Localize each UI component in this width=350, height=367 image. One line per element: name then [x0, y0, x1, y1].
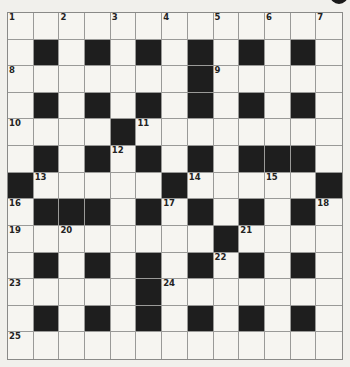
grid-cell[interactable]	[239, 279, 265, 306]
grid-cell[interactable]	[214, 279, 240, 306]
grid-cell[interactable]: 25	[8, 332, 34, 359]
grid-cell[interactable]	[291, 13, 317, 40]
grid-cell[interactable]	[291, 332, 317, 359]
grid-cell[interactable]	[316, 332, 342, 359]
grid-cell[interactable]	[265, 119, 291, 146]
grid-cell[interactable]	[265, 306, 291, 333]
grid-cell[interactable]	[265, 93, 291, 120]
grid-cell[interactable]	[239, 13, 265, 40]
grid-cell[interactable]	[214, 146, 240, 173]
grid-cell[interactable]	[34, 226, 60, 253]
grid-cell[interactable]	[214, 199, 240, 226]
grid-cell[interactable]: 4	[162, 13, 188, 40]
grid-cell[interactable]	[111, 332, 137, 359]
grid-cell[interactable]: 2	[59, 13, 85, 40]
grid-cell[interactable]	[162, 306, 188, 333]
grid-cell[interactable]	[59, 173, 85, 200]
grid-cell[interactable]	[188, 13, 214, 40]
grid-cell[interactable]	[316, 66, 342, 93]
grid-cell[interactable]	[316, 93, 342, 120]
grid-cell[interactable]	[291, 279, 317, 306]
grid-cell[interactable]	[136, 173, 162, 200]
grid-cell[interactable]: 11	[136, 119, 162, 146]
grid-cell[interactable]	[214, 332, 240, 359]
grid-cell[interactable]	[8, 40, 34, 67]
grid-cell[interactable]	[188, 226, 214, 253]
grid-cell[interactable]	[8, 146, 34, 173]
grid-cell[interactable]	[316, 146, 342, 173]
grid-cell[interactable]	[111, 306, 137, 333]
grid-cell[interactable]	[59, 40, 85, 67]
grid-cell[interactable]	[59, 332, 85, 359]
grid-cell[interactable]	[34, 332, 60, 359]
grid-cell[interactable]	[85, 226, 111, 253]
grid-cell[interactable]	[136, 332, 162, 359]
grid-cell[interactable]	[59, 146, 85, 173]
grid-cell[interactable]	[162, 226, 188, 253]
grid-cell[interactable]	[59, 93, 85, 120]
grid-cell[interactable]: 6	[265, 13, 291, 40]
grid-cell[interactable]	[162, 332, 188, 359]
grid-cell[interactable]	[316, 119, 342, 146]
grid-cell[interactable]	[316, 226, 342, 253]
grid-cell[interactable]	[162, 93, 188, 120]
grid-cell[interactable]	[214, 119, 240, 146]
grid-cell[interactable]	[136, 13, 162, 40]
grid-cell[interactable]	[291, 173, 317, 200]
grid-cell[interactable]	[111, 226, 137, 253]
grid-cell[interactable]	[59, 119, 85, 146]
grid-cell[interactable]: 13	[34, 173, 60, 200]
grid-cell[interactable]	[265, 253, 291, 280]
grid-cell[interactable]: 1	[8, 13, 34, 40]
grid-cell[interactable]	[265, 332, 291, 359]
grid-cell[interactable]	[291, 119, 317, 146]
grid-cell[interactable]	[214, 306, 240, 333]
grid-cell[interactable]	[111, 66, 137, 93]
grid-cell[interactable]	[111, 253, 137, 280]
grid-cell[interactable]	[265, 40, 291, 67]
grid-cell[interactable]: 23	[8, 279, 34, 306]
grid-cell[interactable]	[85, 332, 111, 359]
grid-cell[interactable]	[85, 119, 111, 146]
grid-cell[interactable]	[214, 40, 240, 67]
grid-cell[interactable]	[85, 279, 111, 306]
grid-cell[interactable]	[59, 66, 85, 93]
grid-cell[interactable]	[59, 306, 85, 333]
grid-cell[interactable]	[188, 119, 214, 146]
grid-cell[interactable]	[316, 306, 342, 333]
grid-cell[interactable]	[85, 173, 111, 200]
grid-cell[interactable]	[136, 66, 162, 93]
grid-cell[interactable]: 20	[59, 226, 85, 253]
grid-cell[interactable]	[111, 93, 137, 120]
grid-cell[interactable]	[239, 119, 265, 146]
grid-cell[interactable]	[316, 279, 342, 306]
grid-cell[interactable]	[162, 119, 188, 146]
grid-cell[interactable]	[214, 93, 240, 120]
grid-cell[interactable]: 21	[239, 226, 265, 253]
grid-cell[interactable]	[34, 66, 60, 93]
grid-cell[interactable]	[265, 199, 291, 226]
grid-cell[interactable]: 9	[214, 66, 240, 93]
grid-cell[interactable]: 24	[162, 279, 188, 306]
grid-cell[interactable]: 22	[214, 253, 240, 280]
grid-cell[interactable]: 12	[111, 146, 137, 173]
grid-cell[interactable]	[291, 66, 317, 93]
grid-cell[interactable]	[188, 332, 214, 359]
grid-cell[interactable]: 7	[316, 13, 342, 40]
grid-cell[interactable]	[265, 66, 291, 93]
grid-cell[interactable]	[162, 66, 188, 93]
grid-cell[interactable]: 19	[8, 226, 34, 253]
grid-cell[interactable]	[214, 173, 240, 200]
grid-cell[interactable]	[59, 253, 85, 280]
grid-cell[interactable]	[111, 173, 137, 200]
grid-cell[interactable]: 5	[214, 13, 240, 40]
grid-cell[interactable]	[239, 66, 265, 93]
grid-cell[interactable]	[85, 13, 111, 40]
grid-cell[interactable]: 8	[8, 66, 34, 93]
grid-cell[interactable]	[8, 93, 34, 120]
grid-cell[interactable]	[316, 253, 342, 280]
grid-cell[interactable]	[111, 199, 137, 226]
grid-cell[interactable]: 18	[316, 199, 342, 226]
grid-cell[interactable]	[8, 306, 34, 333]
grid-cell[interactable]	[34, 13, 60, 40]
